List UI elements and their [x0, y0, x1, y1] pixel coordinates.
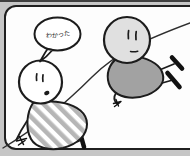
speech-bubble-tail	[40, 49, 53, 62]
screenshot-stage: わかった	[0, 0, 190, 156]
left-character-head	[19, 61, 62, 104]
right-character-mouth-icon	[131, 51, 138, 52]
left-character-striped-shirt	[27, 101, 87, 149]
right-character-head	[104, 17, 150, 63]
comic-scene: わかった	[0, 0, 190, 156]
left-character-icon	[17, 61, 88, 150]
speech-bubble: わかった	[35, 18, 81, 62]
right-character-arm	[114, 93, 116, 104]
right-character-foot	[168, 73, 180, 87]
right-character-foot	[172, 58, 182, 69]
